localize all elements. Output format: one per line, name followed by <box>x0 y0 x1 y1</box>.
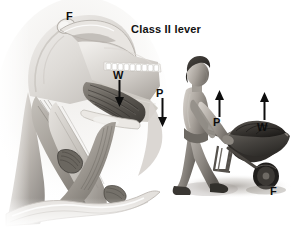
pull-arrow-down-jaw <box>157 98 168 128</box>
label-fulcrum-wheelbarrow: F <box>270 186 277 197</box>
wheelbarrow-illustration <box>168 50 293 229</box>
label-fulcrum-jaw: F <box>66 11 73 22</box>
figure-title: Class II lever <box>131 24 201 35</box>
class-ii-lever-figure: F W P P W F Class II lever <box>0 0 293 229</box>
weight-arrow-down-jaw <box>114 80 125 108</box>
pull-arrow-up-wheelbarrow <box>214 90 225 117</box>
weight-arrow-up-wheelbarrow <box>259 92 270 120</box>
label-weight-wheelbarrow: W <box>257 122 268 133</box>
label-pull-wheelbarrow: P <box>213 117 221 128</box>
